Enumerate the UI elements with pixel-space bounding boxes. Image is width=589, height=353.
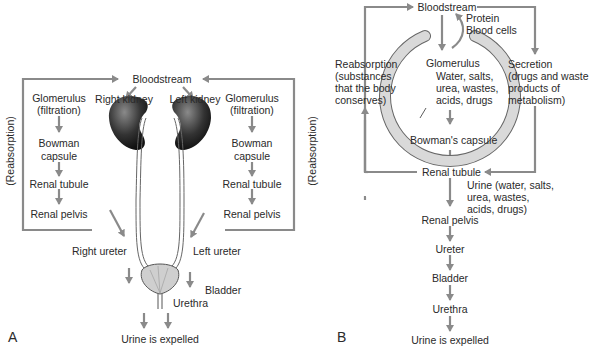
a-right-capsule: capsule	[217, 150, 287, 162]
b-reabsorption-1: (substances	[335, 70, 392, 82]
a-right-filtration: (filtration)	[217, 104, 287, 116]
a-reabsorption-left: (Reabsorption)	[4, 111, 16, 191]
a-bladder: Bladder	[205, 284, 241, 296]
b-glomerulus: Glomerulus	[426, 57, 480, 69]
b-filtrate-2: acids, drugs	[436, 94, 493, 106]
urethra-shape	[158, 294, 162, 309]
a-right-ureter: Right ureter	[72, 245, 127, 257]
a-left-glomerulus: Glomerulus	[24, 92, 94, 104]
b-urine-expelled: Urine is expelled	[400, 334, 500, 346]
a-right-renal-tubule: Renal tubule	[217, 178, 287, 190]
a-left-renal-pelvis: Renal pelvis	[24, 208, 94, 220]
b-renal-pelvis: Renal pelvis	[412, 214, 488, 226]
b-bowmans-capsule: Bowman's capsule	[410, 134, 497, 146]
b-blood-cells: Blood cells	[466, 24, 517, 36]
a-right-renal-pelvis: Renal pelvis	[217, 208, 287, 220]
diagram-graphics	[0, 0, 589, 353]
a-right-kidney: Right kidney	[94, 93, 154, 105]
b-reabsorption-0: Reabsorption	[335, 58, 397, 70]
panel-b-label: B	[337, 331, 346, 343]
a-reabsorption-right: (Reabsorption)	[306, 111, 318, 191]
b-secretion-3: metabolism)	[508, 94, 565, 106]
b-urethra: Urethra	[412, 303, 488, 315]
b-urine-1: urea, wastes,	[467, 191, 529, 203]
b-filtrate-0: Water, salts,	[436, 70, 493, 82]
a-left-capsule: capsule	[24, 150, 94, 162]
b-ureter: Ureter	[412, 243, 488, 255]
a-urine-expelled: Urine is expelled	[110, 333, 210, 345]
b-secretion-0: Secretion	[508, 58, 552, 70]
a-urethra: Urethra	[173, 297, 208, 309]
panel-a-label: A	[8, 331, 17, 343]
b-secretion-1: (drugs and waste	[508, 70, 589, 82]
a-left-bowman: Bowman	[24, 137, 94, 149]
b-reabsorption-3: conserves)	[335, 94, 386, 106]
a-bloodstream: Bloodstream	[122, 73, 202, 85]
a-left-filtration: (filtration)	[24, 104, 94, 116]
a-left-kidney: Left kidney	[165, 93, 225, 105]
b-protein: Protein	[466, 12, 499, 24]
b-renal-tubule: Renal tubule	[422, 166, 481, 178]
b-reabsorption-2: that the body	[335, 82, 396, 94]
a-left-renal-tubule: Renal tubule	[24, 178, 94, 190]
b-filtrate-1: urea, wastes,	[436, 82, 498, 94]
b-bladder: Bladder	[412, 272, 488, 284]
b-secretion-2: products of	[508, 82, 560, 94]
a-right-glomerulus: Glomerulus	[217, 92, 287, 104]
b-urine-0: Urine (water, salts,	[467, 179, 554, 191]
a-left-ureter: Left ureter	[193, 245, 241, 257]
a-right-bowman: Bowman	[217, 137, 287, 149]
